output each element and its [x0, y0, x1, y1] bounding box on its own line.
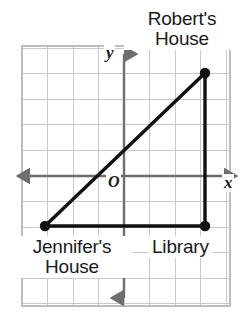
label-library-text: Library: [152, 236, 209, 257]
label-jennifers-house-line1: Jennifer's: [33, 236, 112, 257]
label-roberts-house-line1: Robert's: [148, 8, 217, 29]
origin-label: O: [106, 174, 121, 191]
point-library: [200, 221, 210, 231]
label-jennifers-house: Jennifer's House: [12, 236, 132, 278]
point-roberts-house: [200, 68, 210, 78]
label-library: Library: [149, 236, 212, 258]
x-axis-label: x: [222, 174, 234, 192]
y-axis-label: y: [104, 44, 115, 62]
label-roberts-house-line2: House: [126, 29, 238, 49]
point-jennifers-house: [40, 221, 50, 231]
label-roberts-house: Robert's House: [124, 8, 240, 50]
figure-canvas: Robert's House Jennifer's House Library …: [0, 0, 247, 327]
label-jennifers-house-line2: House: [14, 257, 130, 277]
